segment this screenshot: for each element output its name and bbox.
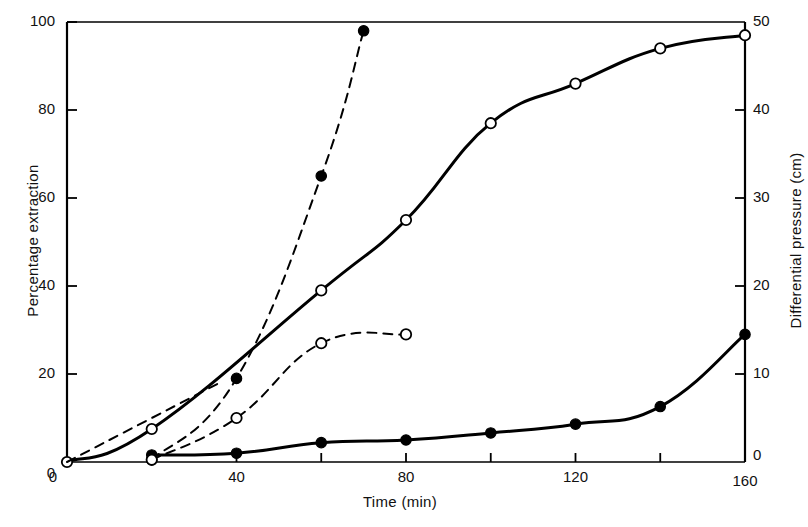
y-tick-label-right: 20 bbox=[753, 276, 793, 293]
y-tick-label-left: 60 bbox=[15, 188, 55, 205]
x-tick-label: 40 bbox=[217, 468, 257, 485]
y-tick-label-left: 20 bbox=[15, 364, 55, 381]
chart-figure: Percentage extraction Differential press… bbox=[0, 0, 808, 527]
data-point-filled bbox=[401, 435, 411, 445]
y-axis-left-title: Percentage extraction bbox=[24, 141, 41, 341]
x-axis-title: Time (min) bbox=[300, 493, 500, 510]
data-point-open bbox=[401, 329, 411, 339]
data-point-open bbox=[147, 424, 157, 434]
y-axis-right-title: Differential pressure (cm) bbox=[787, 136, 804, 346]
chart-svg bbox=[0, 0, 808, 527]
x-tick-label: 0 bbox=[33, 468, 73, 485]
data-point-open bbox=[231, 413, 241, 423]
data-point-open bbox=[655, 43, 665, 53]
data-point-filled bbox=[655, 401, 665, 411]
y-tick-label-right: 30 bbox=[753, 188, 793, 205]
data-point-open bbox=[316, 285, 326, 295]
data-point-filled bbox=[358, 26, 368, 36]
data-point-filled bbox=[231, 448, 241, 458]
data-point-filled bbox=[231, 373, 241, 383]
y-tick-label-right: 40 bbox=[753, 100, 793, 117]
data-point-open bbox=[740, 30, 750, 40]
y-tick-label-left: 100 bbox=[15, 12, 55, 29]
data-point-open bbox=[316, 338, 326, 348]
x-tick-label: 160 bbox=[725, 472, 765, 489]
x-tick-label: 120 bbox=[556, 468, 596, 485]
data-point-filled bbox=[316, 171, 326, 181]
y-tick-label-right: 10 bbox=[753, 364, 793, 381]
data-point-filled bbox=[740, 329, 750, 339]
series-line-2 bbox=[152, 31, 364, 460]
series-line-1 bbox=[152, 334, 745, 455]
data-point-open bbox=[570, 78, 580, 88]
y-tick-label-left: 40 bbox=[15, 276, 55, 293]
data-point-filled bbox=[486, 428, 496, 438]
y-tick-label-right: 50 bbox=[753, 12, 793, 29]
x-tick-label: 80 bbox=[386, 468, 426, 485]
y-tick-label-right: 0 bbox=[753, 446, 793, 463]
data-point-filled bbox=[570, 419, 580, 429]
data-point-open bbox=[147, 455, 157, 465]
series-line-4 bbox=[67, 383, 220, 462]
data-point-filled bbox=[316, 437, 326, 447]
y-tick-label-left: 80 bbox=[15, 100, 55, 117]
data-point-open bbox=[401, 215, 411, 225]
data-point-open bbox=[486, 118, 496, 128]
series-line-0 bbox=[67, 35, 745, 462]
